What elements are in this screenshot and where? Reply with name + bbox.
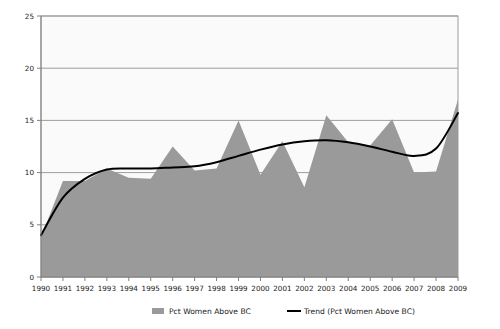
legend-item-label: Trend (Pct Women Above BC) xyxy=(303,307,415,316)
y-tick-label: 10 xyxy=(25,168,35,177)
legend-swatch-area xyxy=(152,308,164,314)
x-tick-label: 1991 xyxy=(54,284,72,293)
x-tick-label: 1990 xyxy=(32,284,51,293)
x-tick-label: 2005 xyxy=(361,284,379,293)
x-tick-label: 1995 xyxy=(142,284,160,293)
x-tick-label: 2009 xyxy=(449,284,468,293)
x-tick-label: 2007 xyxy=(405,284,423,293)
x-tick-label: 1998 xyxy=(207,284,226,293)
legend-item-label: Pct Women Above BC xyxy=(169,307,251,316)
x-tick-label: 2000 xyxy=(251,284,270,293)
x-tick-label: 2001 xyxy=(273,284,291,293)
x-tick-label: 2004 xyxy=(339,284,358,293)
x-tick-label: 2006 xyxy=(383,284,402,293)
y-tick-label: 5 xyxy=(29,220,34,229)
y-tick-label: 15 xyxy=(25,116,34,125)
x-tick-label: 1994 xyxy=(120,284,139,293)
y-tick-label: 0 xyxy=(29,273,34,282)
x-tick-label: 2002 xyxy=(295,284,313,293)
x-tick-label: 2003 xyxy=(317,284,335,293)
y-tick-label: 20 xyxy=(25,64,35,73)
x-tick-label: 1992 xyxy=(76,284,94,293)
y-tick-label: 25 xyxy=(25,12,34,21)
x-tick-label: 1996 xyxy=(164,284,183,293)
x-tick-label: 1997 xyxy=(185,284,203,293)
x-tick-label: 1999 xyxy=(229,284,248,293)
x-tick-label: 2008 xyxy=(427,284,446,293)
chart-svg: 0510152025 19901991199219931994199519961… xyxy=(0,0,500,329)
x-tick-label: 1993 xyxy=(98,284,116,293)
chart-container: 0510152025 19901991199219931994199519961… xyxy=(0,0,500,329)
